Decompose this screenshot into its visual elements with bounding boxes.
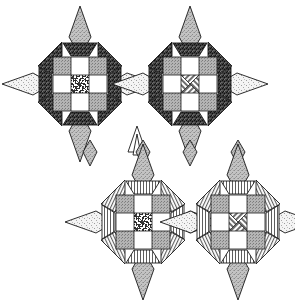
tessellation-diagram	[0, 0, 295, 306]
figure-canvas: can cuckle	[0, 0, 295, 306]
center-block	[53, 57, 107, 111]
center-block	[163, 57, 217, 111]
center-block	[211, 195, 265, 249]
